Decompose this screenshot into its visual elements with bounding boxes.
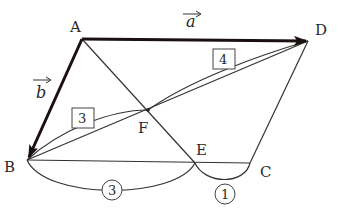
segment-CD xyxy=(250,41,308,163)
vector-label-a: a xyxy=(183,11,201,31)
label-D: D xyxy=(315,21,327,39)
ratio-circle-BE: 3 xyxy=(102,180,122,200)
svg-text:4: 4 xyxy=(219,52,227,67)
label-B: B xyxy=(4,158,15,176)
svg-text:b: b xyxy=(36,83,46,102)
ratio-box-FD: 4 xyxy=(213,49,235,69)
label-F: F xyxy=(138,119,148,137)
segment-AE xyxy=(82,39,195,163)
vector-a-arrow xyxy=(82,39,306,41)
parallelogram-diagram: A D B C E F a b 3 4 3 1 xyxy=(0,0,342,216)
diagonal-BD xyxy=(27,41,308,160)
ratio-circle-EC: 1 xyxy=(215,184,235,204)
label-E: E xyxy=(196,141,207,159)
point-F-dot xyxy=(146,108,150,112)
label-A: A xyxy=(69,18,81,36)
arc-EC xyxy=(195,163,250,180)
ratio-box-BF: 3 xyxy=(72,108,94,128)
svg-text:1: 1 xyxy=(221,187,229,202)
segment-BC xyxy=(27,160,250,163)
vector-label-b: b xyxy=(33,77,51,102)
svg-text:3: 3 xyxy=(78,111,86,126)
svg-text:a: a xyxy=(186,12,196,31)
svg-text:3: 3 xyxy=(108,183,116,198)
label-C: C xyxy=(260,163,271,181)
